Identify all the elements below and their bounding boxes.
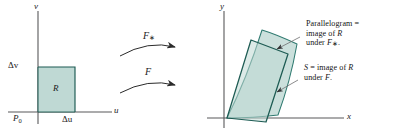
arrow-f-star-label: F∗ — [143, 30, 155, 42]
callout-parallelogram-line3-post: . — [338, 38, 340, 47]
callout-surface-line1-mid: = image of — [308, 63, 348, 72]
change-of-variables-figure: v u Δv Δu P0 R F∗ F y x Parallelogram = … — [0, 0, 396, 138]
arrow-f-star — [120, 45, 175, 56]
delta-v-label: Δv — [8, 60, 18, 71]
callout-surface-line2-pre: under — [304, 73, 325, 82]
callout-surface-line2: under F. — [304, 73, 353, 83]
callout-surface: S = image of R under F. — [304, 63, 353, 82]
callout-parallelogram-line3: under F∗. — [306, 38, 359, 48]
callout-parallelogram: Parallelogram = image of R under F∗. — [306, 19, 359, 48]
arrow-f-label: F — [145, 66, 151, 78]
callout-surface-line1: S = image of R — [304, 63, 353, 73]
region-r-label: R — [53, 83, 59, 94]
callout-parallelogram-line1: Parallelogram = — [306, 19, 359, 29]
callout-parallelogram-line3-pre: under — [306, 38, 327, 47]
right-plot-y-axis-label: y — [220, 1, 224, 12]
callout-surface-line1-r: R — [348, 63, 353, 72]
delta-u-label: Δu — [62, 114, 72, 125]
origin-point-subscript: 0 — [19, 117, 22, 124]
origin-point-label: P0 — [13, 113, 22, 124]
callout-parallelogram-line2-pre: image of — [306, 29, 337, 38]
callout-parallelogram-line2-italic: R — [337, 29, 342, 38]
left-plot-u-axis-label: u — [114, 105, 119, 116]
callout-surface-line2-post: . — [330, 73, 332, 82]
arrow-f-star-glyph: ∗ — [149, 34, 155, 42]
left-plot-group — [8, 11, 112, 124]
right-plot-x-axis-label: x — [347, 111, 351, 122]
left-plot-v-axis-label: v — [34, 1, 38, 12]
callout-parallelogram-line2: image of R — [306, 29, 359, 39]
arrow-f — [120, 83, 175, 93]
